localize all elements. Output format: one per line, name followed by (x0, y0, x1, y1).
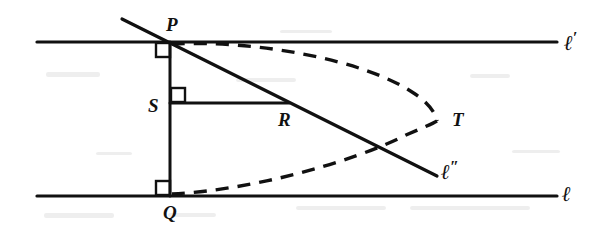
right-angle-marker-p (156, 43, 170, 57)
paper-speck (44, 213, 114, 218)
paper-speck (512, 150, 560, 153)
paper-speck (96, 152, 132, 155)
solid-lines-group (37, 19, 557, 196)
paper-speck (280, 30, 332, 33)
line-label-l-double-base: ℓ (441, 160, 450, 184)
line-label-l-prime-base: ℓ (564, 31, 573, 55)
geometry-figure: P Q S R T ℓ′ ℓ ℓ″ (0, 0, 605, 237)
right-angle-marker-q (156, 181, 170, 195)
paper-speck (296, 206, 386, 210)
line-label-l-prime: ℓ′ (564, 30, 577, 54)
right-angle-marker-s (171, 88, 185, 102)
figure-canvas (0, 0, 605, 237)
point-label-r: R (278, 110, 291, 129)
dashed-curves-group (172, 43, 437, 194)
line-label-l: ℓ (562, 184, 571, 205)
line-label-l-prime-mark: ′ (573, 29, 577, 46)
line-label-l-double-mark: ″ (450, 158, 458, 175)
paper-speck (470, 74, 510, 78)
point-label-s: S (148, 96, 159, 115)
line-label-l-double-prime: ℓ″ (441, 159, 458, 183)
paper-specks-group (44, 30, 560, 218)
point-label-p: P (166, 15, 178, 34)
point-label-t: T (452, 110, 464, 129)
point-label-q: Q (163, 203, 177, 222)
paper-speck (46, 72, 100, 77)
paper-speck (410, 206, 530, 210)
